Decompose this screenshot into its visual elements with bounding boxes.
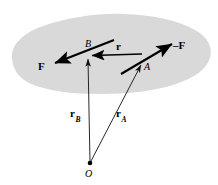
figure-canvas: B A F –F r rB rA O <box>0 0 218 185</box>
diagram-svg <box>0 0 218 185</box>
label-vector-r-b-subscript: B <box>75 115 80 124</box>
label-vector-r-a-subscript: A <box>121 115 126 124</box>
label-force-minus-f: –F <box>173 40 185 51</box>
label-origin: O <box>85 169 92 179</box>
label-point-b: B <box>85 39 91 49</box>
label-vector-r: r <box>116 41 121 52</box>
origin-point <box>88 161 93 166</box>
rigid-body-shape <box>12 14 211 94</box>
label-point-a: A <box>144 62 150 72</box>
label-vector-r-a: rA <box>116 108 126 122</box>
label-vector-r-b: rB <box>70 108 80 122</box>
label-force-f: F <box>38 61 45 72</box>
